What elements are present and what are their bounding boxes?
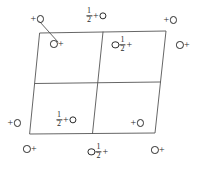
twofold-rotation-circle-icon xyxy=(176,41,184,49)
height-sign-label: + xyxy=(30,144,37,154)
height-sign-label: + xyxy=(102,147,109,157)
symbol-bottom-center: 12+ xyxy=(87,143,108,160)
height-sign-label: + xyxy=(57,39,64,49)
symbol-top-right-outside: + xyxy=(163,15,177,25)
height-sign-label: + xyxy=(163,15,170,25)
height-sign-label: + xyxy=(126,40,133,50)
twofold-rotation-circle-icon xyxy=(37,15,45,23)
twofold-rotation-circle-icon xyxy=(151,146,159,154)
fraction-height-label: 12 xyxy=(119,36,126,53)
twofold-rotation-circle-icon xyxy=(170,16,178,24)
fraction-height-label: 12 xyxy=(55,111,62,128)
height-sign-label: + xyxy=(7,118,14,128)
symbol-bottom-right-outside: + xyxy=(151,145,165,155)
fraction-denominator: 2 xyxy=(95,153,101,161)
height-sign-label: + xyxy=(62,115,69,125)
height-sign-label: + xyxy=(130,118,137,128)
symbol-inner-lower-right: + xyxy=(130,118,144,128)
fraction-denominator: 2 xyxy=(56,121,62,129)
symbol-inner-lower-left: 12+ xyxy=(55,111,76,128)
symmetry-diagram: +12++++12++12+++12++ xyxy=(0,0,198,170)
symbol-left-lower-outside: + xyxy=(7,118,21,128)
fraction-denominator: 2 xyxy=(86,17,92,25)
height-sign-label: + xyxy=(183,40,190,50)
symbol-top-left-outside: + xyxy=(30,14,44,24)
symbol-right-upper-outside: + xyxy=(176,40,190,50)
twofold-rotation-circle-icon xyxy=(50,40,58,48)
twofold-rotation-circle-icon xyxy=(87,148,95,156)
height-sign-label: + xyxy=(30,14,37,24)
twofold-rotation-circle-icon xyxy=(69,116,77,124)
twofold-rotation-circle-icon xyxy=(137,119,145,127)
height-sign-label: + xyxy=(158,145,165,155)
twofold-rotation-circle-icon xyxy=(23,145,31,153)
twofold-rotation-circle-icon xyxy=(111,41,119,49)
symbol-top-center: 12+ xyxy=(85,7,106,24)
fraction-denominator: 2 xyxy=(119,46,125,54)
twofold-rotation-circle-icon xyxy=(14,119,22,127)
symbol-inner-upper-left: + xyxy=(50,39,64,49)
fraction-height-label: 12 xyxy=(95,143,102,160)
twofold-rotation-circle-icon xyxy=(99,12,107,20)
height-sign-label: + xyxy=(92,11,99,21)
fraction-height-label: 12 xyxy=(85,7,92,24)
symbol-bottom-left-outside: + xyxy=(23,144,37,154)
symbol-inner-upper-right: 12+ xyxy=(111,36,132,53)
